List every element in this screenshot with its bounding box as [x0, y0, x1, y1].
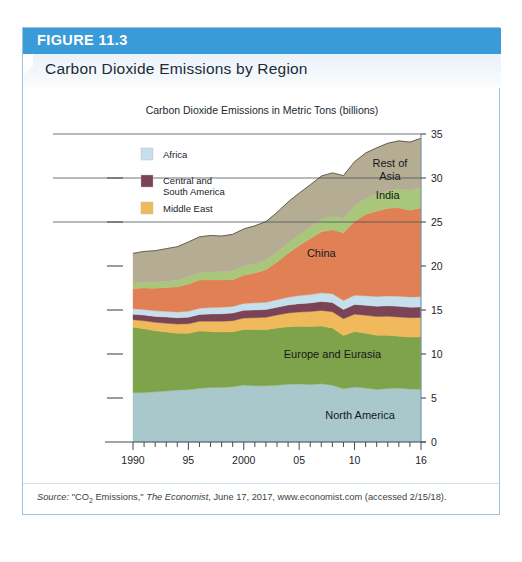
figure-page: FIGURE 11.3 Carbon Dioxide Emissions by … — [0, 0, 522, 562]
figure-title: Carbon Dioxide Emissions by Region — [45, 60, 308, 78]
y-tick-label: 0 — [431, 436, 437, 448]
y-tick-label: 30 — [431, 172, 443, 184]
figure-box: FIGURE 11.3 Carbon Dioxide Emissions by … — [22, 27, 500, 515]
y-tick-label: 5 — [431, 392, 437, 404]
area-label-china: China — [307, 247, 337, 259]
x-tick-label: 16 — [415, 454, 427, 466]
source-prefix: Source: — [37, 492, 69, 502]
x-tick-label: 05 — [293, 454, 305, 466]
source-rest: , June 17, 2017, www.economist.com (acce… — [208, 492, 446, 502]
source-publication: The Economist — [146, 492, 208, 502]
stacked-area-chart: 051015202530351990952000051016AfricaCent… — [23, 124, 501, 484]
source-quoted-post: Emissions," — [93, 492, 144, 502]
x-tick-label: 1990 — [121, 454, 145, 466]
y-tick-label: 10 — [431, 348, 443, 360]
legend-swatch-central-and-south-america — [141, 175, 153, 187]
chart-subtitle: Carbon Dioxide Emissions in Metric Tons … — [23, 104, 501, 116]
area-label-india: India — [376, 189, 401, 201]
x-tick-label: 95 — [183, 454, 195, 466]
y-tick-label: 20 — [431, 260, 443, 272]
x-tick-label: 2000 — [232, 454, 256, 466]
y-tick-label: 25 — [431, 216, 443, 228]
area-label-north-america: North America — [325, 409, 396, 421]
legend-swatch-africa — [141, 148, 153, 160]
legend-swatch-middle-east — [141, 202, 153, 214]
source-divider — [23, 483, 501, 484]
legend-label-central-and-south-america: Central and — [163, 175, 212, 186]
x-tick-label: 10 — [349, 454, 361, 466]
y-tick-label: 35 — [431, 128, 443, 140]
area-label-rest-of-asia: Asia — [379, 170, 401, 182]
figure-number-label: FIGURE 11.3 — [37, 32, 128, 48]
legend-label-africa: Africa — [163, 149, 188, 160]
legend-label-central-and-south-america-line2: South America — [163, 186, 225, 197]
source-note: Source: "CO2 Emissions," The Economist, … — [37, 491, 489, 505]
legend-label-middle-east: Middle East — [163, 203, 213, 214]
area-label-europe-and-eurasia: Europe and Eurasia — [284, 348, 382, 360]
source-quoted-pre: "CO — [72, 492, 89, 502]
chart-plot-area: 051015202530351990952000051016AfricaCent… — [23, 124, 501, 484]
area-label-rest-of-asia: Rest of — [373, 157, 409, 169]
y-tick-label: 15 — [431, 304, 443, 316]
